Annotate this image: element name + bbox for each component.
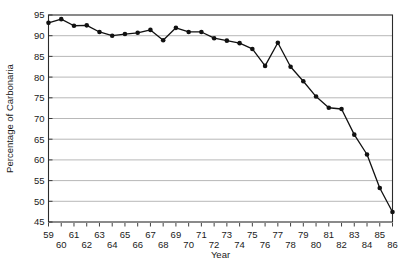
y-tick-label-65: 65 [34, 134, 45, 145]
x-axis-title: Year [211, 249, 230, 260]
gridlines-group [49, 36, 393, 202]
data-point-67 [148, 28, 153, 33]
y-tick-label-70: 70 [34, 113, 45, 124]
x-tick-label-85: 85 [374, 229, 385, 240]
x-tick-label-76: 76 [260, 239, 271, 250]
data-point-63 [97, 30, 102, 35]
data-point-75 [250, 47, 255, 52]
data-point-74 [237, 41, 242, 46]
x-tick-label-61: 61 [69, 229, 80, 240]
y-tick-label-55: 55 [34, 175, 45, 186]
y-tick-label-75: 75 [34, 92, 45, 103]
x-tick-label-86: 86 [387, 239, 398, 250]
x-tick-label-59: 59 [43, 229, 54, 240]
data-points-group [46, 17, 395, 215]
x-tick-label-80: 80 [311, 239, 322, 250]
x-tick-label-77: 77 [273, 229, 284, 240]
data-point-62 [84, 23, 89, 28]
x-tick-label-70: 70 [183, 239, 194, 250]
data-point-65 [123, 32, 128, 37]
y-axis-title: Percentage of Carbonaria [4, 63, 15, 173]
data-point-68 [161, 38, 166, 43]
data-point-85 [377, 186, 382, 191]
data-point-81 [327, 105, 332, 110]
data-point-82 [339, 107, 344, 112]
line-chart: 4550556065707580859095 59606162636465666… [0, 0, 408, 273]
data-point-59 [46, 21, 51, 26]
data-point-60 [59, 17, 64, 22]
x-tick-label-79: 79 [298, 229, 309, 240]
chart-figure: 4550556065707580859095 59606162636465666… [0, 0, 408, 273]
x-tick-label-60: 60 [56, 239, 67, 250]
data-point-77 [276, 40, 281, 45]
x-tick-label-78: 78 [285, 239, 296, 250]
x-tick-label-65: 65 [120, 229, 131, 240]
x-tick-label-83: 83 [349, 229, 360, 240]
x-tick-label-74: 74 [234, 239, 245, 250]
x-tick-label-75: 75 [247, 229, 258, 240]
data-point-73 [225, 38, 230, 43]
y-tick-label-45: 45 [34, 216, 45, 227]
x-tick-label-69: 69 [171, 229, 182, 240]
data-point-78 [288, 64, 293, 69]
y-tick-label-85: 85 [34, 51, 45, 62]
y-tick-label-80: 80 [34, 72, 45, 83]
data-line-carbonaria [49, 19, 393, 212]
x-tick-label-67: 67 [145, 229, 156, 240]
y-tick-labels-group: 4550556065707580859095 [34, 9, 45, 227]
x-tick-label-62: 62 [81, 239, 92, 250]
data-point-83 [352, 132, 357, 137]
x-tick-label-84: 84 [362, 239, 373, 250]
data-point-64 [110, 33, 115, 38]
y-tick-label-60: 60 [34, 154, 45, 165]
x-tick-label-81: 81 [324, 229, 335, 240]
x-tick-label-64: 64 [107, 239, 118, 250]
data-point-84 [365, 152, 370, 157]
data-point-79 [301, 79, 306, 84]
y-tickmarks-group [49, 15, 53, 222]
y-tick-label-50: 50 [34, 196, 45, 207]
data-point-72 [212, 36, 217, 41]
data-point-66 [135, 31, 140, 36]
data-point-80 [314, 94, 319, 99]
x-tick-label-71: 71 [196, 229, 207, 240]
data-point-76 [263, 64, 268, 69]
y-tick-label-95: 95 [34, 9, 45, 20]
x-tickmarks-group [49, 223, 393, 227]
x-tick-labels-group: 5960616263646566676869707172737475767778… [43, 229, 398, 250]
x-tick-label-68: 68 [158, 239, 169, 250]
x-tick-label-66: 66 [132, 239, 143, 250]
x-tick-label-73: 73 [222, 229, 233, 240]
data-point-70 [186, 30, 191, 35]
x-tick-label-82: 82 [336, 239, 347, 250]
data-point-71 [199, 30, 204, 35]
data-point-61 [72, 23, 77, 28]
data-point-86 [390, 210, 395, 215]
x-tick-label-63: 63 [94, 229, 105, 240]
y-tick-label-90: 90 [34, 30, 45, 41]
data-point-69 [174, 26, 179, 31]
